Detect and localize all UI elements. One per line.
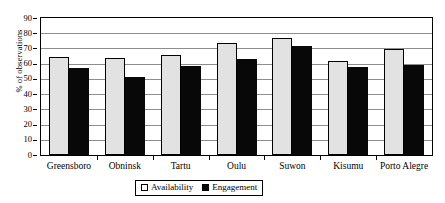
x-axis-label-tartu: Tartu	[153, 160, 209, 173]
y-axis-tick	[33, 155, 37, 156]
y-axis-tick-label: 90	[24, 14, 33, 23]
y-axis-tick-label: 0	[28, 151, 32, 160]
y-axis-tick-label: 50	[24, 74, 33, 83]
y-axis-tick	[33, 125, 37, 126]
bar-engagement-kisumu	[348, 67, 368, 155]
bar-availability-greensboro	[49, 57, 69, 155]
bar-chart: % of observations 0102030405060708090 Gr…	[0, 0, 445, 203]
x-axis-label-oulu: Oulu	[209, 160, 265, 173]
bar-availability-porto-alegre	[384, 49, 404, 155]
bar-engagement-oulu	[237, 59, 257, 156]
y-axis-tick-label: 60	[24, 59, 33, 68]
bar-availability-tartu	[161, 55, 181, 155]
legend-item-availability: Availability	[141, 182, 193, 193]
y-axis-tick	[33, 64, 37, 65]
x-axis-label-greensboro: Greensboro	[41, 160, 97, 173]
bar-group	[105, 18, 145, 155]
bar-group	[328, 18, 368, 155]
bar-group	[217, 18, 257, 155]
y-axis-tick	[33, 109, 37, 110]
bar-availability-obninsk	[105, 58, 125, 155]
bar-group	[272, 18, 312, 155]
y-axis-tick	[33, 94, 37, 95]
bar-engagement-greensboro	[69, 68, 89, 155]
bar-engagement-tartu	[181, 66, 201, 155]
bar-availability-oulu	[217, 43, 237, 155]
x-axis-label-porto-alegre: Porto Alegre	[376, 160, 432, 173]
x-axis-label-obninsk: Obninsk	[97, 160, 153, 173]
bar-availability-kisumu	[328, 61, 348, 156]
y-axis-tick	[33, 33, 37, 34]
y-axis-tick	[33, 48, 37, 49]
x-axis-label-suwon: Suwon	[264, 160, 320, 173]
x-axis-label-kisumu: Kisumu	[320, 160, 376, 173]
y-axis-labels: 0102030405060708090	[0, 0, 40, 203]
bar-engagement-obninsk	[125, 77, 145, 155]
y-axis-tick-label: 20	[24, 120, 33, 129]
bar-availability-suwon	[272, 38, 292, 156]
legend-item-engagement: Engagement	[202, 182, 257, 193]
bar-group	[49, 18, 89, 155]
bar-group	[161, 18, 201, 155]
bar-group	[384, 18, 424, 155]
bar-engagement-suwon	[292, 46, 312, 155]
availability-swatch-icon	[141, 184, 148, 191]
y-axis-tick-label: 70	[24, 44, 33, 53]
y-axis-tick	[33, 140, 37, 141]
y-axis-tick-label: 30	[24, 105, 33, 114]
bar-engagement-porto-alegre	[404, 65, 424, 155]
x-axis-labels: GreensboroObninskTartuOuluSuwonKisumuPor…	[40, 160, 433, 176]
y-axis-tick	[33, 79, 37, 80]
engagement-swatch-icon	[202, 184, 209, 191]
y-axis-tick-label: 40	[24, 90, 33, 99]
legend-label-availability: Availability	[151, 182, 193, 193]
chart-legend: Availability Engagement	[135, 180, 263, 196]
y-axis-tick-label: 10	[24, 135, 33, 144]
y-axis-tick	[33, 18, 37, 19]
legend-label-engagement: Engagement	[212, 182, 257, 193]
bars-layer	[41, 18, 432, 155]
y-axis-tick-label: 80	[24, 29, 33, 38]
